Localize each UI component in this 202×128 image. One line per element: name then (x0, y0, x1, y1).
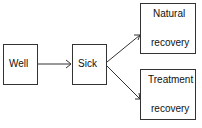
node-well-label: Well (9, 58, 28, 69)
edge-sick-to-treatment (107, 66, 140, 99)
node-natural-label-line2: recovery (151, 37, 189, 48)
node-natural-label-line1: Natural (153, 8, 185, 19)
node-treatment-label-line2: recovery (151, 103, 189, 114)
node-treatment-label-line1: Treatment (148, 74, 193, 85)
node-sick-label: Sick (78, 58, 97, 69)
edge-sick-to-natural (107, 35, 140, 62)
